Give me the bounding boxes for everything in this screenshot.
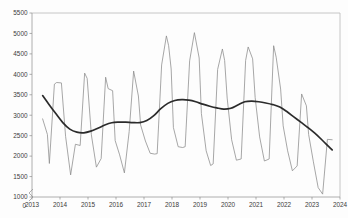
y-tick-label: 4000 [13,71,28,78]
y-tick-label: 2000 [13,152,28,159]
x-tick-label: 2023 [305,201,320,208]
y-tick-label: 3000 [13,112,28,119]
y-tick-label: 3500 [13,91,28,98]
x-tick-label: 2014 [53,201,68,208]
y-tick-label: 4500 [13,50,28,57]
x-tick-label: 2018 [165,201,180,208]
x-tick-label: 2021 [249,201,264,208]
x-tick-label: 2020 [221,201,236,208]
x-tick-label: 2015 [81,201,96,208]
x-tick-label: 2017 [137,201,152,208]
x-tick-label: 2013 [25,201,40,208]
line-chart: 1000150020002500300035004000450050005500… [0,0,348,218]
y-tick-label: 2500 [13,132,28,139]
chart-container: 1000150020002500300035004000450050005500… [0,0,348,218]
x-tick-label: 2019 [193,201,208,208]
y-tick-label: 5500 [13,9,28,16]
x-tick-label: 2022 [277,201,292,208]
x-tick-label: 2016 [109,201,124,208]
x-tick-label: 2024 [333,201,348,208]
y-tick-label: 1000 [13,193,28,200]
y-tick-label: 5000 [13,30,28,37]
y-tick-label: 1500 [13,173,28,180]
y-axis-origin-label: 0 [22,202,26,209]
